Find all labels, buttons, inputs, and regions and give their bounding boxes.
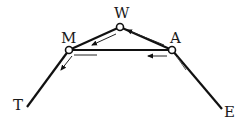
label-T: T: [13, 96, 23, 114]
label-E: E: [224, 103, 235, 121]
network-diagram: W M A T E: [0, 0, 246, 126]
diagram-canvas: W M A T E: [0, 0, 246, 126]
node-M: [66, 47, 73, 54]
label-A: A: [169, 29, 181, 47]
label-M: M: [61, 29, 76, 47]
edge-A-E: [172, 50, 222, 109]
flow-arrow-W-to-M: [92, 34, 116, 45]
node-W: [117, 24, 124, 31]
node-A: [169, 47, 176, 54]
edge-M-W: [69, 27, 120, 50]
flow-arrow-A-to-W: [127, 30, 164, 45]
edge-T-M: [27, 50, 69, 107]
label-W: W: [114, 4, 130, 22]
